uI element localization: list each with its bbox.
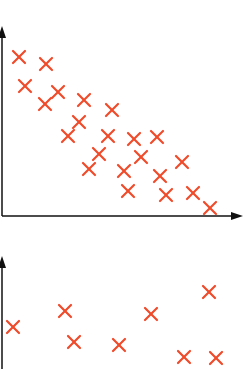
x-marker-icon [40,58,52,70]
x-marker-icon [39,98,51,110]
x-marker-icon [13,51,25,63]
x-marker-icon [59,305,71,317]
x-marker-icon [73,116,85,128]
x-marker-icon [187,187,199,199]
x-marker-icon [145,308,157,320]
x-marker-icon [203,286,215,298]
x-marker-icon [178,351,190,363]
x-marker-icon [151,131,163,143]
x-marker-icon [106,104,118,116]
y-axis-arrow-icon [0,256,6,268]
x-marker-icon [118,165,130,177]
x-marker-icon [160,189,172,201]
x-marker-icon [154,170,166,182]
x-marker-icon [176,156,188,168]
x-marker-icon [204,202,216,214]
x-marker-icon [210,352,222,364]
x-marker-icon [78,94,90,106]
scatter-plot-no-correlation [0,256,222,369]
x-marker-icon [19,80,31,92]
x-marker-icon [128,133,140,145]
y-axis-arrow-icon [0,26,6,38]
x-marker-icon [83,163,95,175]
x-marker-icon [68,336,80,348]
x-marker-icon [52,86,64,98]
x-marker-icon [135,151,147,163]
scatter-plot-negative-correlation [0,26,243,220]
x-marker-icon [102,130,114,142]
x-axis-arrow-icon [231,212,243,220]
x-marker-icon [113,339,125,351]
data-markers [13,51,216,214]
x-marker-icon [7,321,19,333]
x-marker-icon [62,130,74,142]
x-marker-icon [122,185,134,197]
scatter-figure [0,0,246,369]
x-marker-icon [93,148,105,160]
data-markers [7,286,222,364]
